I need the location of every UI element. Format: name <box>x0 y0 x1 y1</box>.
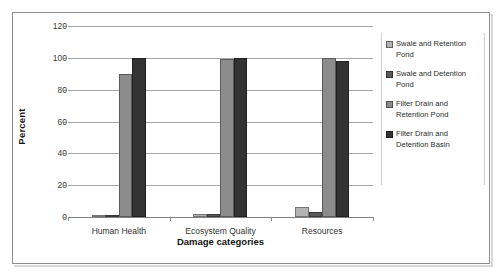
legend-swatch-icon <box>386 101 393 108</box>
y-tick-label: 80 <box>33 85 67 95</box>
bar-series-container <box>68 26 373 217</box>
y-tick-label: 100 <box>33 53 67 63</box>
x-axis-title: Damage categories <box>68 236 373 247</box>
legend-swatch-icon <box>386 41 393 48</box>
bar-group <box>170 26 272 217</box>
legend-item[interactable]: Filter Drain and Detention Basin <box>386 129 484 150</box>
bar <box>132 58 146 217</box>
y-axis-title-text: Percent <box>16 108 27 144</box>
legend-item-label: Swale and Detention Pond <box>396 69 482 90</box>
chart-legend: Swale and Retention PondSwale and Detent… <box>381 33 485 185</box>
y-tick-mark <box>63 26 67 27</box>
y-tick-mark <box>63 58 67 59</box>
y-tick-label: 120 <box>33 21 67 31</box>
y-tick-mark <box>63 122 67 123</box>
x-axis-divider-tick <box>170 217 171 221</box>
x-axis-divider-tick <box>373 217 374 221</box>
y-tick-label: 60 <box>33 117 67 127</box>
bar <box>193 214 207 217</box>
legend-item-label: Swale and Retention Pond <box>396 39 482 60</box>
legend-item[interactable]: Swale and Retention Pond <box>386 39 484 60</box>
bar-group <box>68 26 170 217</box>
bar <box>295 207 309 217</box>
legend-item-label: Filter Drain and Detention Basin <box>396 129 482 150</box>
y-tick-mark <box>63 217 67 218</box>
bar <box>309 212 323 217</box>
bar <box>220 59 234 217</box>
bar <box>322 58 336 217</box>
y-tick-label: 20 <box>33 180 67 190</box>
bar <box>207 214 221 217</box>
x-tick-label: Ecosystem Quality <box>185 226 255 236</box>
y-tick-label: 0 <box>33 212 67 222</box>
plot-area: 020406080100120 Human HealthEcosystem Qu… <box>68 26 373 217</box>
x-tick-label: Resources <box>302 226 343 236</box>
legend-item-label: Filter Drain and Retention Pond <box>396 99 482 120</box>
x-axis-line <box>68 217 373 218</box>
y-tick-mark <box>63 153 67 154</box>
bar <box>92 215 106 217</box>
y-tick-label: 40 <box>33 148 67 158</box>
x-axis-divider-tick <box>68 217 69 221</box>
legend-swatch-icon <box>386 131 393 138</box>
legend-swatch-icon <box>386 71 393 78</box>
chart-figure: Percent 020406080100120 Human HealthEcos… <box>0 0 503 279</box>
legend-item[interactable]: Filter Drain and Retention Pond <box>386 99 484 120</box>
y-tick-mark <box>63 90 67 91</box>
bar <box>234 58 248 217</box>
bar-group <box>271 26 373 217</box>
legend-item[interactable]: Swale and Detention Pond <box>386 69 484 90</box>
y-tick-mark <box>63 185 67 186</box>
y-axis-title: Percent <box>14 78 28 174</box>
bar <box>119 74 133 217</box>
x-axis-divider-tick <box>271 217 272 221</box>
bar <box>336 61 350 217</box>
bar <box>105 215 119 217</box>
x-tick-label: Human Health <box>92 226 146 236</box>
